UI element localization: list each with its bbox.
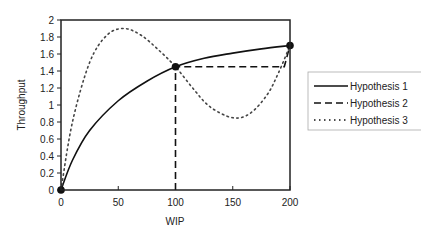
y-tick-label: 2 xyxy=(48,15,54,26)
y-tick-label: 0.2 xyxy=(40,168,54,179)
y-tick-label: 1.2 xyxy=(40,83,54,94)
plot-lines xyxy=(57,29,294,194)
y-tick-label: 1.6 xyxy=(40,49,54,60)
x-tick-label: 0 xyxy=(58,197,64,208)
x-tick-label: 150 xyxy=(224,197,241,208)
data-point-marker xyxy=(172,63,180,71)
y-axis: 00.20.40.60.811.21.41.61.82 xyxy=(40,15,61,196)
legend: Hypothesis 1Hypothesis 2Hypothesis 3 xyxy=(308,72,421,130)
throughput-chart: 00.20.40.60.811.21.41.61.82 050100150200… xyxy=(0,0,421,235)
y-tick-label: 1.8 xyxy=(40,32,54,43)
legend-label-2: Hypothesis 2 xyxy=(350,98,408,109)
legend-label-1: Hypothesis 1 xyxy=(350,81,408,92)
y-tick-label: 0.8 xyxy=(40,117,54,128)
x-tick-label: 50 xyxy=(113,197,125,208)
y-tick-label: 0.4 xyxy=(40,151,54,162)
y-tick-label: 0 xyxy=(48,185,54,196)
legend-label-3: Hypothesis 3 xyxy=(350,115,408,126)
y-tick-label: 1.4 xyxy=(40,66,54,77)
x-axis-label: WIP xyxy=(166,216,185,227)
x-tick-label: 100 xyxy=(167,197,184,208)
y-tick-label: 1 xyxy=(48,100,54,111)
x-tick-label: 200 xyxy=(282,197,299,208)
y-axis-label: Throughput xyxy=(16,79,27,130)
y-tick-label: 0.6 xyxy=(40,134,54,145)
